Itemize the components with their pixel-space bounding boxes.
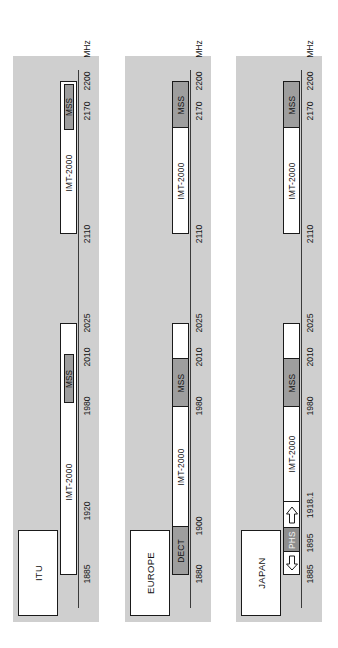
band-itu-upper: IMT-2000 MSS xyxy=(60,81,77,234)
inset-mss-itu-lower: MSS xyxy=(64,354,74,403)
region-label-europe: EUROPE xyxy=(145,552,156,594)
region-label-box-europe: EUROPE xyxy=(130,530,170,616)
segment-phs-japan: PHS xyxy=(284,527,299,552)
band-europe-upper: IMT-2000 MSS xyxy=(172,81,189,234)
segment-blank-europe-lower xyxy=(173,325,188,358)
phs-arrow-upper-japan xyxy=(284,502,299,527)
segment-mss-japan-upper: MSS xyxy=(284,82,299,128)
band-europe-lower: DECT IMT-2000 MSS xyxy=(172,323,189,575)
segment-mss-europe-upper: MSS xyxy=(173,82,188,128)
phs-arrow-lower-japan xyxy=(284,552,299,574)
segment-mss-europe-lower: MSS xyxy=(173,358,188,407)
panel-japan: JAPAN 1885 1895 1918.1 1980 2010 2025 21… xyxy=(236,56,322,622)
region-label-box-itu: ITU xyxy=(18,530,58,616)
arrow-down-icon xyxy=(285,555,298,571)
segment-imt2000-europe-upper: IMT-2000 xyxy=(173,129,188,233)
region-label-itu: ITU xyxy=(33,565,44,581)
band-japan-upper: IMT-2000 MSS xyxy=(283,81,300,234)
segment-imt2000-japan-lower: IMT-2000 xyxy=(284,407,299,502)
segment-mss-japan-lower: MSS xyxy=(284,358,299,407)
segment-imt2000-japan-upper: IMT-2000 xyxy=(284,129,299,233)
frequency-axis-japan xyxy=(301,70,303,608)
region-label-box-japan: JAPAN xyxy=(241,530,281,616)
region-label-japan: JAPAN xyxy=(256,557,267,588)
frequency-axis-europe xyxy=(190,70,192,608)
band-japan-lower: PHS IMT-2000 MSS xyxy=(283,323,300,575)
frequency-axis-itu xyxy=(78,70,80,608)
arrow-up-icon xyxy=(285,506,298,524)
segment-imt2000-europe-lower: IMT-2000 xyxy=(173,407,188,526)
segment-dect-europe: DECT xyxy=(173,526,188,574)
inset-mss-itu-upper: MSS xyxy=(64,84,74,130)
panel-itu: ITU 1885 1920 1980 2010 2025 2110 2170 2… xyxy=(13,56,99,622)
band-itu-lower: IMT-2000 MSS xyxy=(60,323,77,575)
segment-blank-japan-lower xyxy=(284,325,299,358)
panel-europe: EUROPE 1880 1900 1980 2010 2025 2110 217… xyxy=(125,56,211,622)
